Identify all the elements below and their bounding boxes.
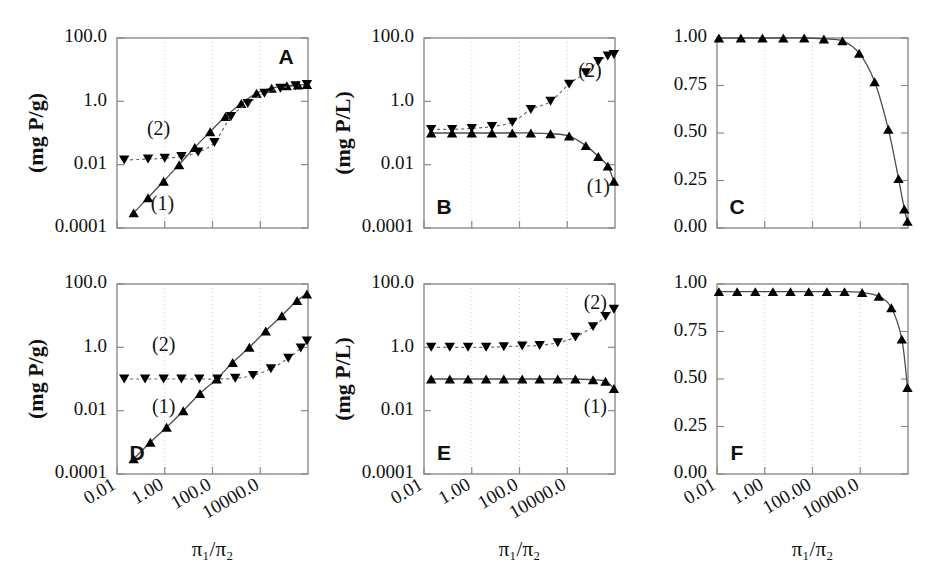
series-annotation: (1) <box>151 192 174 215</box>
data-point-marker <box>553 338 563 347</box>
y-tick-label: 1.0 <box>83 335 107 356</box>
series-annotation: (2) <box>578 59 601 82</box>
x-axis: 0.011.00100.010000.0 <box>80 467 263 522</box>
y-tick-label: 0.25 <box>674 168 707 189</box>
y-tick-label: 0.75 <box>674 73 707 94</box>
y-axis: 0.00010.011.0100.0 <box>362 25 615 236</box>
y-tick-label: 0.00 <box>674 215 707 236</box>
y-tick-label: 100.0 <box>371 25 414 46</box>
data-point-marker <box>897 335 907 344</box>
data-point-marker <box>248 371 258 380</box>
data-point-marker <box>266 364 276 373</box>
data-point-marker <box>296 344 306 353</box>
y-tick-label: 0.25 <box>674 414 707 435</box>
data-point-marker <box>886 303 896 312</box>
data-point-marker <box>119 375 129 384</box>
y-tick-label: 0.01 <box>381 152 414 173</box>
y-tick-label: 100.0 <box>64 271 107 292</box>
series-line <box>719 38 908 221</box>
y-axis: 0.000.250.500.751.00 <box>674 271 908 482</box>
data-point-marker <box>481 343 491 352</box>
y-axis: 0.000.250.500.751.00 <box>674 25 908 236</box>
y-tick-label: 0.0001 <box>362 215 414 236</box>
series-annotation: (2) <box>584 291 607 314</box>
y-tick-label: 0.01 <box>381 398 414 419</box>
data-point-marker <box>603 162 613 171</box>
x-axis: 0.011.00100.010000.0 <box>387 467 570 522</box>
y-tick-label: 1.00 <box>674 25 707 46</box>
panel-letter-a: A <box>278 45 293 68</box>
data-point-marker <box>564 132 574 141</box>
y-tick-label: 1.0 <box>390 335 414 356</box>
data-point-marker <box>600 377 610 386</box>
data-point-marker <box>193 148 203 157</box>
y-tick-label: 0.01 <box>74 152 107 173</box>
y-tick-label: 100.0 <box>371 271 414 292</box>
x-axis-title: π₁/π₂ <box>499 537 541 561</box>
data-point-marker <box>209 138 219 147</box>
series-annotation: (2) <box>147 117 170 140</box>
x-axis-title: π₁/π₂ <box>792 537 834 561</box>
series-annotation: (2) <box>152 333 175 356</box>
data-point-marker <box>883 125 893 134</box>
y-axis-title: (mg P/g) <box>23 93 48 173</box>
y-axis-title: (mg P/L) <box>330 91 355 175</box>
data-series-one <box>426 375 619 393</box>
data-point-marker <box>487 122 497 131</box>
data-point-marker <box>119 156 129 165</box>
y-tick-label: 1.0 <box>390 89 414 110</box>
y-tick-label: 1.0 <box>83 89 107 110</box>
data-point-marker <box>526 105 536 114</box>
data-point-marker <box>176 152 186 161</box>
data-point-marker <box>545 97 555 106</box>
x-axis <box>424 221 567 228</box>
data-point-marker <box>869 77 879 86</box>
data-series-fraction <box>714 287 913 392</box>
panel-letter-f: F <box>731 441 744 464</box>
y-axis: 0.00010.011.0100.0 <box>362 271 615 482</box>
data-series-two <box>119 336 312 383</box>
y-tick-label: 100.0 <box>64 25 107 46</box>
y-axis-title: (mg P/L) <box>330 337 355 421</box>
y-tick-label: 0.01 <box>74 398 107 419</box>
data-point-marker <box>893 174 903 183</box>
data-point-marker <box>499 342 509 351</box>
chart-panel-f: 0.000.250.500.751.000.011.00100.0010000.… <box>617 262 932 566</box>
data-point-marker <box>588 322 598 331</box>
data-point-marker <box>507 118 517 127</box>
series-annotation: (1) <box>587 175 610 198</box>
data-point-marker <box>570 333 580 342</box>
series-annotation: (1) <box>584 395 607 418</box>
x-axis <box>117 221 260 228</box>
chart-panel-e: 0.00010.011.0100.00.011.00100.010000.0(1… <box>324 262 641 566</box>
data-point-marker <box>463 343 473 352</box>
y-axis-title: (mg P/g) <box>23 339 48 419</box>
y-tick-label: 1.00 <box>674 271 707 292</box>
panel-letter-d: D <box>129 441 144 464</box>
series-line <box>719 292 908 388</box>
chart-panel-d: 0.00010.011.0100.00.011.00100.010000.0(1… <box>17 262 334 566</box>
data-point-marker <box>517 342 527 351</box>
data-point-marker <box>302 290 312 299</box>
x-axis-title: π₁/π₂ <box>192 537 234 561</box>
series-annotation: (1) <box>152 395 175 418</box>
x-tick-label: 1.00 <box>434 473 473 508</box>
y-axis: 0.00010.011.0100.0 <box>55 25 308 236</box>
x-tick-label: 1.00 <box>127 473 166 508</box>
y-tick-label: 0.0001 <box>55 215 107 236</box>
y-tick-label: 0.75 <box>674 319 707 340</box>
panel-letter-c: C <box>729 195 744 218</box>
data-point-marker <box>874 292 884 301</box>
data-point-marker <box>902 217 912 226</box>
y-tick-label: 0.50 <box>674 120 707 141</box>
figure-root: 0.00010.011.0100.0(1)(2)A(mg P/g)0.00010… <box>0 0 932 576</box>
gridlines <box>765 284 861 474</box>
data-point-marker <box>902 383 912 392</box>
panel-letter-b: B <box>436 195 451 218</box>
panel-letter-e: E <box>437 441 451 464</box>
x-axis: 0.011.00100.0010000.0 <box>680 467 863 522</box>
x-axis <box>717 221 860 228</box>
y-tick-label: 0.50 <box>674 366 707 387</box>
gridlines <box>765 38 861 228</box>
